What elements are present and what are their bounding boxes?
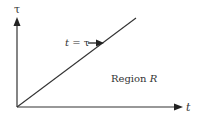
tau-axis-arrowhead-icon	[14, 17, 21, 26]
region-label: Region R	[111, 73, 158, 84]
tau-axis-label: τ	[14, 3, 20, 16]
t-axis-arrowhead-icon	[174, 104, 183, 111]
boundary-line-label: t = τ	[65, 37, 90, 48]
integration-region-diagram: τ t t = τ Region R	[0, 0, 201, 121]
boundary-line-t-equals-tau	[17, 18, 136, 107]
t-axis-label: t	[186, 101, 191, 114]
